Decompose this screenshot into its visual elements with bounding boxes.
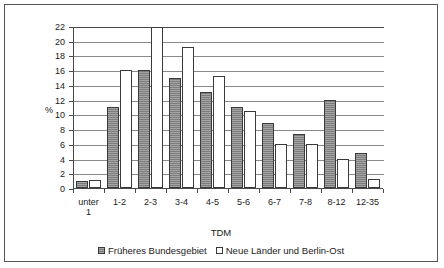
bar-west	[262, 123, 274, 188]
legend-swatch-icon	[98, 247, 105, 254]
y-axis-tick-label: 14	[43, 82, 65, 91]
x-axis-tick-mark	[166, 189, 167, 193]
bar-group	[105, 26, 136, 188]
bar-east	[89, 180, 101, 188]
x-axis-tick-mark	[259, 189, 260, 193]
x-axis-tick-mark	[228, 189, 229, 193]
bar-group	[74, 26, 105, 188]
x-axis-tick-mark	[321, 189, 322, 193]
y-axis-tick-label: 8	[43, 126, 65, 135]
x-axis-title: TDM	[5, 227, 437, 238]
bar-west	[324, 100, 336, 188]
bar-west	[76, 181, 88, 188]
y-axis-tick-mark	[69, 174, 73, 175]
y-axis-tick-label: 12	[43, 97, 65, 106]
bar-east	[244, 111, 256, 188]
y-axis-tick-mark	[69, 101, 73, 102]
legend-label: Neue Länder und Berlin-Ost	[226, 245, 344, 256]
y-axis-tick-mark	[69, 145, 73, 146]
legend-item[interactable]: Neue Länder und Berlin-Ost	[216, 245, 344, 256]
bar-east	[213, 76, 225, 188]
x-axis-tick-mark	[135, 189, 136, 193]
bar-group	[260, 26, 291, 188]
x-axis-tick-mark	[352, 189, 353, 193]
bar-east	[275, 144, 287, 188]
y-axis-tick-label: 10	[43, 111, 65, 120]
bar-group	[291, 26, 322, 188]
bar-west	[231, 107, 243, 188]
bar-group	[322, 26, 353, 188]
bar-group	[167, 26, 198, 188]
y-axis-tick-mark	[69, 130, 73, 131]
chart-frame: % TDM Früheres BundesgebietNeue Länder u…	[4, 4, 438, 262]
y-axis-tick-mark	[69, 160, 73, 161]
bar-east	[368, 179, 380, 188]
x-axis-tick-mark	[73, 189, 74, 193]
bar-west	[355, 153, 367, 188]
y-axis-tick-label: 0	[43, 185, 65, 194]
y-axis-tick-label: 4	[43, 156, 65, 165]
bar-group	[353, 26, 384, 188]
legend-label: Früheres Bundesgebiet	[108, 245, 207, 256]
bar-east	[151, 27, 163, 188]
legend-swatch-icon	[216, 247, 223, 254]
bar-group	[198, 26, 229, 188]
y-axis-tick-label: 2	[43, 170, 65, 179]
x-axis-category-label: 12-35	[347, 197, 389, 207]
bar-group	[136, 26, 167, 188]
bar-west	[169, 78, 181, 188]
y-axis-tick-mark	[69, 115, 73, 116]
x-axis-tick-mark	[383, 189, 384, 193]
x-axis-tick-mark	[104, 189, 105, 193]
chart-legend: Früheres BundesgebietNeue Länder und Ber…	[5, 245, 437, 256]
y-axis-tick-label: 20	[43, 38, 65, 47]
bar-east	[182, 47, 194, 188]
bar-east	[337, 159, 349, 188]
y-axis-tick-label: 16	[43, 67, 65, 76]
y-axis-tick-mark	[69, 86, 73, 87]
bar-west	[138, 70, 150, 188]
bar-west	[200, 92, 212, 188]
plot-area	[73, 27, 383, 189]
x-axis-tick-mark	[290, 189, 291, 193]
bar-west	[107, 107, 119, 188]
bar-group	[229, 26, 260, 188]
y-axis-tick-mark	[69, 27, 73, 28]
x-axis-tick-mark	[197, 189, 198, 193]
bar-east	[306, 144, 318, 188]
y-axis-tick-mark	[69, 56, 73, 57]
y-axis-tick-label: 6	[43, 141, 65, 150]
y-axis-tick-mark	[69, 71, 73, 72]
y-axis-tick-label: 18	[43, 52, 65, 61]
bar-east	[120, 70, 132, 188]
y-axis-tick-mark	[69, 42, 73, 43]
legend-item[interactable]: Früheres Bundesgebiet	[98, 245, 207, 256]
y-axis-tick-label: 22	[43, 23, 65, 32]
bar-west	[293, 134, 305, 188]
